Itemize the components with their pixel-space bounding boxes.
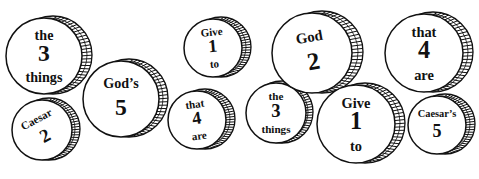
coin-number: 3: [271, 100, 280, 121]
coin-number: 5: [433, 121, 442, 141]
coin-that-4-are-large: that4are: [385, 11, 475, 94]
coin-top-word: God’s: [103, 75, 139, 91]
coin-gods-5: God’s5: [83, 58, 170, 139]
coin-bottom-word: things: [262, 123, 292, 135]
coin-number: 1: [350, 107, 362, 134]
coin-the-3-things-left: the3things: [6, 15, 94, 96]
coin-bottom-word: things: [26, 69, 63, 85]
coin-god-2: God2: [272, 10, 365, 95]
coin-top-word: Caesar’s: [418, 108, 456, 119]
coin-bottom-word: to: [350, 138, 362, 154]
coin-give-1-to-large: Give1to: [317, 82, 407, 165]
coin-bottom-word: are: [191, 129, 208, 143]
coin-give-1-to-small: Give1to: [184, 15, 253, 78]
coin-caesar-2: Caesar2: [12, 97, 82, 162]
coin-number: 3: [38, 40, 50, 66]
coin-puzzle-canvas: the3thingsCaesar2God’s5Give1tothat4areth…: [0, 0, 479, 179]
coin-number: 4: [418, 36, 430, 63]
coin-bottom-word: are: [414, 67, 434, 83]
coin-bottom-word: to: [209, 57, 220, 70]
coin-caesars-5: Caesar’s5: [408, 92, 477, 155]
coin-that-4-are-small: that4are: [168, 87, 237, 150]
coin-number: 1: [207, 36, 218, 57]
coin-number: 5: [115, 94, 127, 120]
